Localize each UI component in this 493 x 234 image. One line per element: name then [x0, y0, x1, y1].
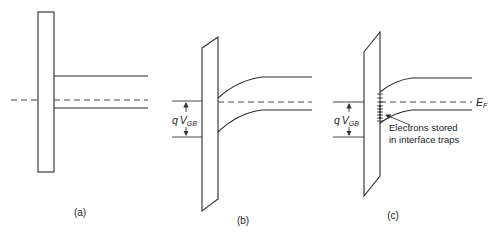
panel-c-label: (c)	[387, 210, 399, 221]
oxide-layer	[364, 32, 380, 196]
panel-a: (a)	[11, 12, 148, 218]
band-diagram-svg: (a) qVGB (b) EF	[0, 0, 493, 234]
oxide-layer	[38, 12, 54, 172]
conduction-band	[380, 78, 472, 92]
voltage-label: qVGB	[172, 114, 197, 127]
panel-c: EF Electrons stored in interface traps	[333, 32, 488, 221]
panel-b-label: (b)	[237, 215, 249, 226]
valence-band	[218, 110, 312, 132]
fermi-level-label: EF	[476, 96, 488, 109]
band-diagram-figure: (a) qVGB (b) EF	[0, 0, 493, 234]
conduction-band	[218, 77, 312, 98]
annotation-line-1: Electrons stored	[389, 122, 458, 133]
oxide-layer	[202, 37, 218, 211]
annotation-line-2: in interface traps	[389, 134, 459, 145]
voltage-label: qVGB	[334, 114, 359, 127]
panel-a-label: (a)	[74, 207, 86, 218]
panel-b: qVGB (b)	[172, 37, 312, 226]
